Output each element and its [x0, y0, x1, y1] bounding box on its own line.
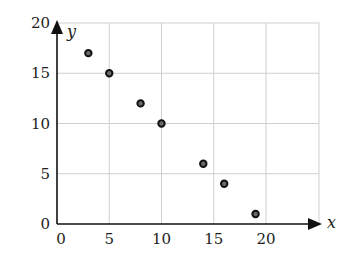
data-point [221, 181, 227, 187]
y-tick-label: 5 [40, 165, 50, 183]
tick-labels: 0510152005101520 [31, 14, 276, 248]
x-tick-label: 10 [152, 230, 171, 248]
y-axis-label: y [66, 22, 77, 41]
data-point [106, 70, 112, 76]
y-tick-label: 10 [31, 115, 50, 133]
x-axis-label: x [327, 213, 336, 232]
data-point [137, 100, 143, 106]
data-point [252, 211, 258, 217]
data-point [200, 161, 206, 167]
x-tick-label: 20 [256, 230, 275, 248]
x-tick-label: 0 [56, 230, 66, 248]
y-tick-label: 0 [40, 215, 50, 233]
y-tick-label: 20 [31, 14, 50, 32]
axes: x y [51, 20, 336, 232]
x-tick-label: 5 [104, 230, 114, 248]
data-points [85, 50, 259, 217]
x-axis-arrow-icon [308, 218, 322, 230]
data-point [158, 120, 164, 126]
grid [57, 23, 319, 224]
data-point [85, 50, 91, 56]
y-tick-label: 15 [31, 64, 50, 82]
y-axis-arrow-icon [51, 20, 63, 34]
x-tick-label: 15 [204, 230, 223, 248]
scatter-chart: x y 0510152005101520 [0, 0, 347, 256]
